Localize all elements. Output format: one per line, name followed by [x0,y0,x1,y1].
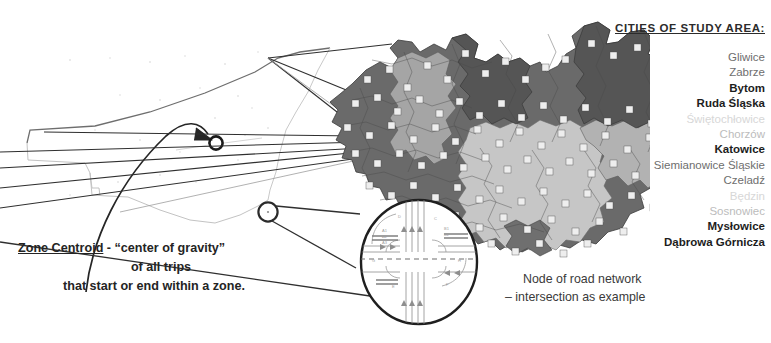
zone-centroid-term-rest: - “center of gravity” [103,241,225,255]
zone-centroid-term: Zone Centroid [18,241,103,255]
city-list-item: Siemianowice Śląskie [583,158,765,173]
zone-texture-speckles [69,51,269,195]
figure-root: A1A2 A3B1 B2C DE FG H CITIES OF STUDY AR… [0,0,771,343]
city-list-item: Bytom [583,81,765,96]
city-list-item: Zabrze [583,65,765,80]
city-list-item: Katowice [583,142,765,157]
svg-text:H: H [458,258,461,263]
svg-text:A1: A1 [382,228,388,233]
city-list-item: Będzin [583,189,765,204]
zone-centroid-caption-line3: that start or end within a zone. [18,277,286,296]
svg-text:A3: A3 [382,240,388,245]
city-list-item: Czeladź [583,173,765,188]
city-list-item: Chorzów [583,127,765,142]
zone-centroid-caption: Zone Centroid - “center of gravity” of a… [18,239,286,296]
svg-text:C: C [434,216,437,221]
city-list-panel: CITIES OF STUDY AREA: Gliwice Zabrze Byt… [583,22,765,250]
node-marker-icon [258,202,277,221]
svg-text:B2: B2 [444,232,450,237]
zone-centroid-caption-line2: of all trips [18,258,286,277]
road-node-caption-line2: – intersection as example [505,288,720,306]
city-list-title: CITIES OF STUDY AREA: [583,22,765,34]
city-list: Gliwice Zabrze Bytom Ruda Śląska Świętoc… [583,50,765,250]
road-node-caption: Node of road network – intersection as e… [505,270,720,306]
zone-connector-lines [0,44,392,208]
svg-text:B1: B1 [444,226,450,231]
zone-centroid-caption-line1: Zone Centroid - “center of gravity” [18,239,286,258]
city-list-item: Sosnowiec [583,204,765,219]
city-list-item: Mysłowice [583,219,765,234]
city-list-item: Ruda Śląska [583,96,765,111]
city-list-item: Świętochłowice [583,112,765,127]
svg-text:E: E [392,284,395,289]
road-node-caption-line1: Node of road network [505,270,720,288]
svg-text:G: G [372,258,375,263]
svg-text:A2: A2 [382,234,388,239]
city-list-item: Gliwice [583,50,765,65]
centroid-marker-icon [209,136,222,149]
city-list-item: Dąbrowa Górnicza [583,235,765,250]
svg-text:D: D [398,214,401,219]
